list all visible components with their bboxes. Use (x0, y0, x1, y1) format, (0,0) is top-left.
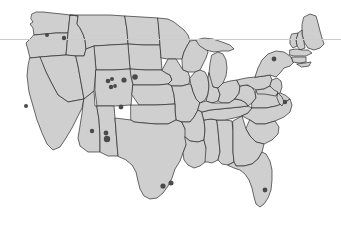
location-marker-northern-idaho (62, 36, 66, 40)
state-boundaries (26, 12, 324, 207)
state-washington (30, 12, 70, 35)
location-marker-nebraska-panhandle (132, 74, 138, 80)
state-texas (115, 118, 188, 199)
location-marker-new-mexico-central (104, 136, 110, 142)
state-alabama (217, 120, 234, 165)
location-marker-wyoming-west-a (106, 79, 111, 84)
location-marker-wyoming-east (121, 77, 126, 82)
state-new-mexico (97, 106, 118, 156)
state-connecticut (292, 57, 306, 63)
location-marker-virginia-tidewater (283, 100, 287, 104)
location-marker-new-york-upstate (272, 57, 277, 62)
state-maine (302, 14, 324, 50)
location-marker-texas-houston (169, 181, 174, 186)
location-marker-south-florida (263, 188, 268, 193)
state-kansas (132, 84, 175, 105)
location-marker-wyoming-central-b (113, 84, 117, 88)
us-map-svg (0, 0, 341, 228)
location-marker-new-mexico-north (104, 131, 109, 136)
state-new-york (255, 51, 294, 77)
location-marker-arizona-phoenix (90, 129, 94, 133)
location-marker-wyoming-west-b (110, 77, 114, 81)
location-marker-colorado-front-range (119, 105, 124, 110)
state-massachusetts (290, 49, 312, 56)
location-marker-wyoming-central-a (109, 85, 113, 89)
state-south-dakota (128, 44, 162, 70)
location-marker-san-francisco-bay (24, 104, 28, 108)
location-marker-eastern-washington (45, 33, 49, 37)
map-figure (0, 0, 341, 228)
state-oklahoma (131, 104, 176, 124)
location-marker-texas-austin (160, 183, 165, 188)
state-wyoming (94, 44, 130, 70)
state-north-dakota (125, 16, 160, 45)
